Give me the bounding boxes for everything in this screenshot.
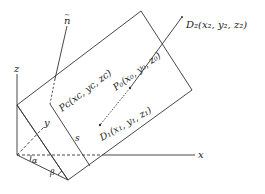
- plane-left-to-bottom: [17, 105, 68, 180]
- diagram-canvas: z x y n ~ s α β D₂(x₂, y₂, z₂) P₀(x₀, y₀…: [0, 0, 265, 194]
- side-label-s: s: [75, 133, 80, 143]
- alpha-arc: [30, 155, 31, 161]
- point-d2-dot: [181, 16, 183, 18]
- point-p0-dot: [129, 87, 131, 89]
- normal-vector-line: [55, 26, 67, 79]
- point-pc-label: Pᴄ(xᴄ, yᴄ, zᴄ): [56, 67, 114, 114]
- point-d2-label: D₂(x₂, y₂, z₂): [185, 19, 247, 30]
- normal-vector-hidden: [50, 79, 55, 104]
- beta-label: β: [49, 168, 55, 177]
- x-axis-label: x: [198, 149, 204, 160]
- point-p0-label: P₀(x₀, y₀, z₀): [110, 49, 163, 93]
- y-axis-label: y: [43, 117, 50, 128]
- z-axis-label: z: [13, 63, 20, 74]
- point-d1-dot: [99, 124, 101, 126]
- base-edge: [17, 155, 68, 180]
- normal-arrow-mark: ~: [64, 11, 70, 19]
- y-axis: [17, 127, 44, 155]
- plane-inner-line: [50, 104, 90, 166]
- beta-arc: [58, 171, 62, 175]
- alpha-label: α: [32, 156, 38, 165]
